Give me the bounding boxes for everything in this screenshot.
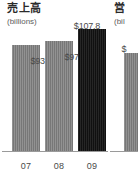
- plot-area: $93.5 $97.4 $107.8: [0, 30, 110, 152]
- tick-label-08: 08: [45, 161, 73, 171]
- bar-secondary-partial: [124, 53, 138, 151]
- x-axis-line-secondary: [110, 151, 138, 152]
- chart-panel-operating-income: 営 (bil $: [110, 0, 138, 173]
- chart-figure: 売上高 (billions) $93.5 $97.4 $107.8 07 08 …: [0, 0, 138, 173]
- plot-area-secondary: $: [110, 30, 138, 152]
- bar-value-09: $107.8: [64, 21, 110, 31]
- chart-subtitle-units-secondary: (bil: [114, 17, 125, 27]
- chart-subtitle-units: (billions): [7, 17, 37, 27]
- chart-title-secondary: 営: [114, 2, 126, 15]
- chart-title: 売上高: [7, 2, 42, 15]
- chart-panel-sales: 売上高 (billions) $93.5 $97.4 $107.8 07 08 …: [0, 0, 110, 173]
- tick-label-07: 07: [12, 161, 40, 171]
- x-axis-tick-labels: 07 08 09: [0, 152, 110, 173]
- bar-09: [78, 29, 106, 151]
- bar-value-secondary: $: [116, 44, 132, 54]
- tick-label-09: 09: [78, 161, 106, 171]
